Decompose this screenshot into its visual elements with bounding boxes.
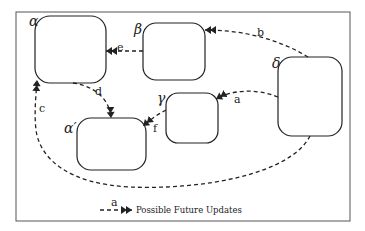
node-alpha-prime-label: α′ — [64, 120, 77, 136]
edge-label-b: b — [257, 26, 264, 39]
legend-text: Possible Future Updates — [136, 205, 242, 215]
edge-label-a: a — [234, 93, 241, 106]
node-gamma: γ — [157, 90, 218, 143]
legend-edge-label: a — [111, 196, 118, 209]
node-gamma-label: γ — [157, 90, 166, 106]
node-delta-label: δ — [272, 55, 280, 71]
node-delta: δ — [272, 55, 342, 136]
outer-frame — [16, 12, 350, 221]
node-alpha: α — [29, 13, 106, 83]
node-alpha-label: α — [29, 13, 39, 29]
legend: a Possible Future Updates — [100, 196, 242, 215]
node-beta-label: β — [133, 21, 142, 37]
edge-label-e: e — [117, 41, 124, 54]
edge-label-c: c — [39, 102, 45, 115]
edges — [35, 30, 310, 187]
edge-label-d: d — [95, 85, 102, 98]
node-beta: β — [133, 21, 205, 80]
edge-label-f: f — [153, 122, 158, 135]
node-alpha-prime: α′ — [64, 118, 146, 170]
diagram-canvas: α β δ γ α′ b e a d f c — [0, 0, 365, 231]
edge-d — [73, 83, 111, 118]
edge-a — [216, 91, 278, 99]
